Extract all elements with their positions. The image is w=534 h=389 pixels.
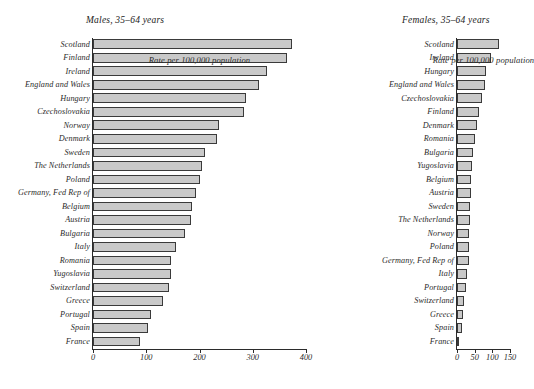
bar-row: France	[93, 335, 306, 349]
category-label-females-10: Belgium	[426, 173, 454, 187]
bar-males-14	[93, 229, 185, 239]
bar-males-6	[93, 120, 219, 130]
bar-row: Spain	[457, 322, 510, 336]
tick-label-males-4: 400	[300, 353, 313, 362]
bar-females-19	[457, 296, 464, 306]
bar-row: Sweden	[93, 146, 306, 160]
category-label-males-16: Romania	[60, 254, 90, 268]
bar-row: Portugal	[93, 308, 306, 322]
category-label-males-1: Finland	[63, 51, 90, 65]
category-label-males-17: Yugoslavia	[53, 267, 90, 281]
bar-row: Ireland	[93, 65, 306, 79]
bar-row: France	[457, 335, 510, 349]
category-label-females-19: Switzerland	[414, 294, 454, 308]
panel-males: Males, 35–64 years ScotlandFinlandIrelan…	[0, 0, 320, 389]
category-label-females-20: Greece	[430, 308, 454, 322]
panel-females: Females, 35–64 years ScotlandIrelandHung…	[320, 0, 521, 389]
bar-females-4	[457, 93, 482, 103]
bar-females-20	[457, 310, 463, 320]
category-label-males-8: Sweden	[64, 146, 90, 160]
category-label-females-22: France	[430, 335, 454, 349]
category-label-males-0: Scotland	[61, 38, 90, 52]
bar-row: Switzerland	[457, 295, 510, 309]
bar-row: Scotland	[457, 38, 510, 52]
bar-females-13	[457, 215, 470, 225]
category-label-males-9: The Netherlands	[34, 159, 90, 173]
bar-males-3	[93, 80, 259, 90]
bar-males-9	[93, 161, 202, 171]
bar-females-7	[457, 134, 475, 144]
category-label-males-5: Czechoslovakia	[37, 105, 90, 119]
category-label-females-12: Sweden	[428, 200, 454, 214]
bar-row: Romania	[457, 133, 510, 147]
bar-females-11	[457, 188, 471, 198]
bar-row: Yugoslavia	[457, 160, 510, 174]
chart-title-males: Males, 35–64 years	[86, 15, 164, 25]
bar-females-18	[457, 283, 466, 293]
category-label-males-10: Poland	[66, 173, 90, 187]
plot-area-females: ScotlandIrelandHungaryEngland and WalesC…	[457, 38, 510, 349]
bar-females-22	[457, 337, 459, 347]
category-label-females-21: Spain	[435, 321, 454, 335]
x-ticks-males: 0100200300400	[93, 349, 306, 379]
bar-males-22	[93, 337, 140, 347]
tick-label-males-0: 0	[91, 353, 95, 362]
tick-label-males-3: 300	[246, 353, 259, 362]
bar-males-16	[93, 256, 171, 266]
x-axis-title-males: Rate per 100,000 population	[149, 55, 251, 65]
category-label-females-16: Germany, Fed Rep of	[382, 254, 454, 268]
bar-females-12	[457, 202, 470, 212]
x-axis-title-females: Rate per 100,000 population	[433, 55, 534, 65]
bar-females-21	[457, 323, 462, 333]
chart-title-females: Females, 35–64 years	[402, 15, 490, 25]
bar-males-15	[93, 242, 176, 252]
bar-row: Austria	[93, 214, 306, 228]
bar-males-13	[93, 215, 191, 225]
bar-row: Spain	[93, 322, 306, 336]
category-label-males-22: France	[66, 335, 90, 349]
bar-males-19	[93, 296, 163, 306]
category-label-females-13: The Netherlands	[398, 213, 454, 227]
category-label-males-19: Greece	[66, 294, 90, 308]
bar-rows-females: ScotlandIrelandHungaryEngland and WalesC…	[457, 38, 510, 349]
category-label-males-21: Spain	[71, 321, 90, 335]
bar-row: Poland	[457, 241, 510, 255]
bar-row: Norway	[457, 227, 510, 241]
bar-row: Germany, Fed Rep of	[457, 254, 510, 268]
plot-area-males: ScotlandFinlandIrelandEngland and WalesH…	[93, 38, 306, 349]
tick-label-females-0: 0	[455, 353, 459, 362]
category-label-males-20: Portugal	[60, 308, 90, 322]
tick-label-females-2: 100	[486, 353, 499, 362]
bar-row: Belgium	[93, 200, 306, 214]
bar-row: The Netherlands	[457, 214, 510, 228]
tick-label-males-1: 100	[140, 353, 153, 362]
bar-row: Denmark	[457, 119, 510, 133]
category-label-males-12: Belgium	[62, 200, 90, 214]
bar-row: Italy	[457, 268, 510, 282]
bar-females-16	[457, 256, 469, 266]
bar-males-12	[93, 202, 192, 212]
category-label-males-6: Norway	[63, 119, 90, 133]
category-label-females-17: Italy	[438, 267, 454, 281]
bar-males-21	[93, 323, 148, 333]
bar-males-10	[93, 175, 200, 185]
bar-females-2	[457, 66, 486, 76]
category-label-females-15: Poland	[430, 240, 454, 254]
bar-row: Poland	[93, 173, 306, 187]
category-label-males-11: Germany, Fed Rep of	[18, 186, 90, 200]
category-label-females-4: Czechoslovakia	[401, 92, 454, 106]
bar-females-0	[457, 39, 499, 49]
bar-row: The Netherlands	[93, 160, 306, 174]
bar-females-17	[457, 269, 467, 279]
bar-row: Czechoslovakia	[457, 92, 510, 106]
bar-row: Hungary	[93, 92, 306, 106]
bar-females-3	[457, 80, 485, 90]
bar-row: Bulgaria	[457, 146, 510, 160]
bar-females-8	[457, 148, 473, 158]
x-ticks-females: 050100150	[457, 349, 510, 379]
bar-row: Romania	[93, 254, 306, 268]
bar-males-8	[93, 148, 205, 158]
category-label-females-0: Scotland	[425, 38, 454, 52]
bar-males-11	[93, 188, 196, 198]
